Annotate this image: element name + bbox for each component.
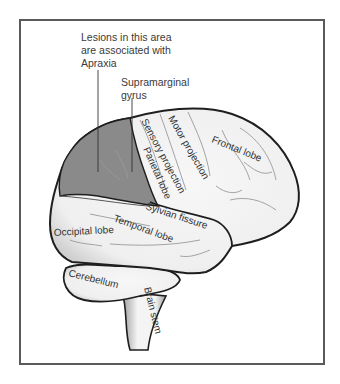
supramarginal-callout-line-1: Supramarginal: [121, 76, 189, 88]
apraxia-callout: Lesions in this area are associated with…: [81, 31, 174, 69]
brain-diagram: Lesions in this area are associated with…: [0, 0, 340, 384]
apraxia-callout-line-1: Lesions in this area: [81, 31, 172, 43]
apraxia-callout-line-3: Apraxia: [81, 57, 117, 69]
supramarginal-callout: Supramarginal gyrus: [121, 76, 192, 101]
apraxia-callout-line-2: are associated with: [81, 44, 171, 56]
supramarginal-callout-line-2: gyrus: [121, 89, 147, 101]
